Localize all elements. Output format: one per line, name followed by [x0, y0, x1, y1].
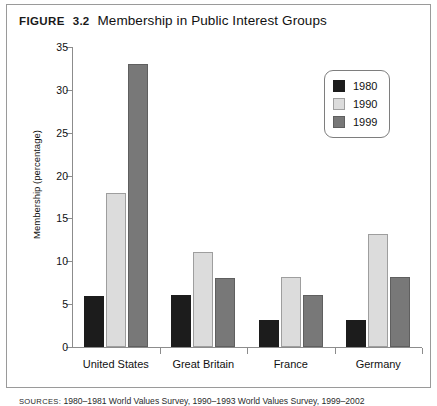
x-tick [247, 348, 248, 354]
bar-1980-germany [346, 320, 366, 347]
x-tick-label: France [274, 358, 308, 370]
bar-1980-great-britain [171, 295, 191, 347]
figure-label: Figure [19, 15, 65, 27]
legend-swatch-icon [333, 116, 345, 128]
y-tick-label: 35 [56, 41, 68, 53]
source-label: Sources: [19, 397, 61, 406]
figure-frame: Figure 3.2 Membership in Public Interest… [6, 4, 431, 388]
bar-1990-germany [368, 234, 388, 347]
bar-1999-great-britain [215, 278, 235, 347]
bar-1980-united-states [84, 296, 104, 347]
y-tick-label: 25 [56, 127, 68, 139]
source-note: Sources: 1980–1981 World Values Survey, … [19, 396, 437, 406]
legend-label: 1980 [353, 80, 377, 92]
bar-1990-united-states [106, 193, 126, 347]
x-tick [160, 348, 161, 354]
bar-1990-france [281, 277, 301, 347]
legend-label: 1999 [353, 116, 377, 128]
bar-1999-france [303, 295, 323, 347]
chart-container: Membership (percentage) 05101520253035 U… [7, 39, 430, 387]
y-tick-label: 10 [56, 255, 68, 267]
x-tick-label: United States [83, 358, 149, 370]
figure-header: Figure 3.2 Membership in Public Interest… [19, 13, 327, 28]
y-tick-label: 0 [62, 341, 68, 353]
x-tick-label: Germany [356, 358, 401, 370]
bar-1990-great-britain [193, 252, 213, 347]
x-tick [335, 348, 336, 354]
x-tick-label: Great Britain [172, 358, 234, 370]
bar-1999-germany [390, 277, 410, 347]
legend-item-1990: 1990 [333, 95, 377, 113]
y-tick-label: 20 [56, 170, 68, 182]
legend-swatch-icon [333, 98, 345, 110]
y-axis-title: Membership (percentage) [31, 105, 42, 265]
bar-1999-united-states [128, 64, 148, 347]
y-tick-label: 15 [56, 212, 68, 224]
bar-1980-france [259, 320, 279, 347]
legend-item-1999: 1999 [333, 113, 377, 131]
legend-label: 1990 [353, 98, 377, 110]
y-axis-line [72, 47, 73, 348]
chart-legend: 198019901999 [324, 70, 390, 138]
page-title: Membership in Public Interest Groups [97, 13, 326, 28]
figure-number: 3.2 [73, 15, 90, 27]
source-text: 1980–1981 World Values Survey, 1990–1993… [63, 396, 364, 406]
legend-swatch-icon [333, 80, 345, 92]
y-tick-label: 30 [56, 84, 68, 96]
legend-item-1980: 1980 [333, 77, 377, 95]
x-tick [422, 348, 423, 354]
y-tick-label: 5 [62, 298, 68, 310]
